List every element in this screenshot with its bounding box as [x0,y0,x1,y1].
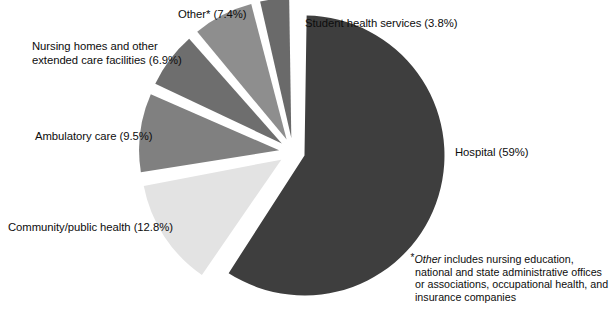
footnote-text: includes nursing education, national and… [415,253,608,303]
footnote: *Other includes nursing education, natio… [415,252,611,304]
slice-label-ambulatory-care: Ambulatory care (9.5%) [35,130,153,144]
slice-label-hospital: Hospital (59%) [455,146,528,160]
slice-label-community-public-health: Community/public health (12.8%) [8,221,173,235]
slice-label-other: Other* (7.4%) [178,8,246,22]
slice-label-nursing-homes: Nursing homes and other extended care fa… [32,40,182,67]
pie-slice-group [139,0,444,295]
footnote-emphasis: Other [414,253,441,265]
pie-chart-figure: Other* (7.4%) Student health services (3… [0,0,613,310]
slice-label-student-health-services: Student health services (3.8%) [305,17,457,31]
